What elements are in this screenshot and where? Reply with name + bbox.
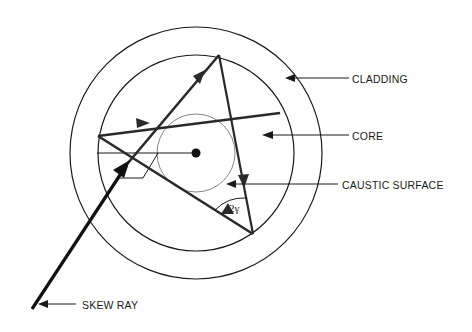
ray-arrow-right-icon — [136, 118, 150, 128]
cladding-label: CLADDING — [352, 74, 408, 85]
fiber-cross-section-diagram — [0, 0, 472, 332]
cladding-leader-arrow-icon — [285, 74, 295, 82]
skew-ray-label: SKEW RAY — [82, 300, 138, 311]
skew-ray-arrow-icon — [113, 160, 130, 178]
ray-segment-left-to-right — [98, 113, 280, 136]
ray-arrow-down-icon — [238, 174, 249, 188]
skew-ray-leader-arrow-icon — [38, 300, 48, 308]
core-label: CORE — [352, 131, 383, 142]
angle-2gamma-label: 2γ — [229, 203, 239, 214]
core-leader-arrow-icon — [262, 131, 273, 139]
caustic-leader-arrow-icon — [226, 180, 236, 188]
caustic-surface-label: CAUSTIC SURFACE — [342, 180, 444, 191]
